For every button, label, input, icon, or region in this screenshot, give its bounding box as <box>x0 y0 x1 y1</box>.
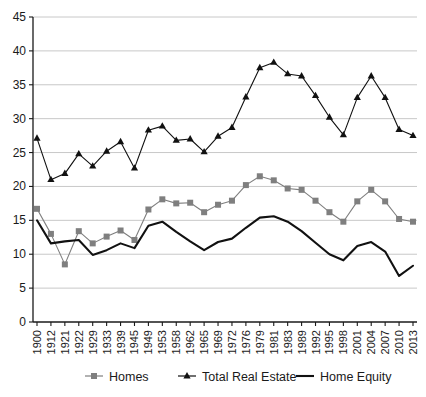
x-axis-tick-label: 1929 <box>87 330 99 354</box>
x-axis-tick-label: 1958 <box>170 330 182 354</box>
data-point-marker <box>201 209 207 215</box>
x-axis-tick-label: 2007 <box>379 330 391 354</box>
chart-container: 0510152025303540451900191219211922192919… <box>0 0 426 397</box>
data-point-marker <box>187 135 194 141</box>
data-point-marker <box>117 138 124 144</box>
legend-label: Homes <box>109 370 149 384</box>
x-axis-tick-label: 2004 <box>365 330 377 354</box>
x-axis-tick-label: 1979 <box>254 330 266 354</box>
data-point-marker <box>368 187 374 193</box>
data-point-marker <box>90 240 96 246</box>
x-axis-tick-label: 1992 <box>310 330 322 354</box>
x-axis-tick-label: 1983 <box>282 330 294 354</box>
data-point-marker <box>33 134 40 140</box>
data-point-marker <box>257 173 263 179</box>
data-point-marker <box>159 196 165 202</box>
x-axis-tick-label: 1933 <box>101 330 113 354</box>
x-axis-tick-label: 1998 <box>337 330 349 354</box>
data-point-marker <box>340 219 346 225</box>
data-point-marker <box>173 200 179 206</box>
data-point-marker <box>229 198 235 204</box>
x-axis-tick-label: 1962 <box>184 330 196 354</box>
legend-item-total-real-estate[interactable]: Total Real Estate <box>178 370 297 384</box>
data-point-marker <box>103 147 110 153</box>
series-total-real-estate <box>33 58 416 182</box>
data-point-marker <box>62 261 68 267</box>
data-point-marker <box>215 202 221 208</box>
data-point-marker <box>131 164 138 170</box>
x-axis-group: 1900191219211922192919331939194519491953… <box>31 322 419 354</box>
x-axis-tick-label: 1972 <box>226 330 238 354</box>
legend-label: Total Real Estate <box>202 370 297 384</box>
data-point-marker <box>395 126 402 132</box>
data-point-marker <box>118 228 124 234</box>
data-point-marker <box>368 72 375 78</box>
x-axis-tick-label: 2013 <box>407 330 419 354</box>
x-axis-tick-label: 1969 <box>212 330 224 354</box>
data-point-marker <box>187 200 193 206</box>
y-axis-tick-label: 35 <box>13 78 27 92</box>
x-axis-tick-label: 1953 <box>156 330 168 354</box>
x-axis-tick-label: 1981 <box>268 330 280 354</box>
data-point-marker <box>75 150 82 156</box>
data-point-marker <box>354 198 360 204</box>
legend: HomesTotal Real EstateHome Equity <box>85 370 392 384</box>
x-axis-tick-label: 2001 <box>351 330 363 354</box>
x-axis-tick-label: 2010 <box>393 330 405 354</box>
x-axis-tick-label: 1995 <box>323 330 335 354</box>
data-point-marker <box>382 198 388 204</box>
y-axis-tick-label: 20 <box>13 179 27 193</box>
data-point-marker <box>159 122 166 128</box>
data-point-marker <box>76 228 82 234</box>
x-axis-tick-label: 1912 <box>45 330 57 354</box>
y-axis-tick-label: 15 <box>13 213 27 227</box>
data-point-marker <box>48 231 54 237</box>
data-point-marker <box>271 177 277 183</box>
legend-marker-square <box>91 373 97 379</box>
legend-marker-triangle <box>183 372 190 378</box>
x-axis-tick-label: 1900 <box>31 330 43 354</box>
y-axis-tick-label: 10 <box>13 247 27 261</box>
y-axis-tick-label: 40 <box>13 44 27 58</box>
x-axis-tick-label: 1921 <box>59 330 71 354</box>
y-axis-tick-label: 30 <box>13 112 27 126</box>
x-axis-tick-label: 1939 <box>115 330 127 354</box>
line-chart: 0510152025303540451900191219211922192919… <box>0 0 426 397</box>
data-point-marker <box>228 124 235 130</box>
series-line <box>37 62 413 179</box>
x-axis-tick-label: 1976 <box>240 330 252 354</box>
y-axis-tick-label: 5 <box>19 281 26 295</box>
data-point-marker <box>410 219 416 225</box>
x-axis-tick-label: 1922 <box>73 330 85 354</box>
legend-item-home-equity[interactable]: Home Equity <box>296 370 392 384</box>
data-point-marker <box>145 206 151 212</box>
legend-label: Home Equity <box>320 370 392 384</box>
data-point-marker <box>299 187 305 193</box>
data-point-marker <box>396 216 402 222</box>
data-point-marker <box>214 132 221 138</box>
x-axis-tick-label: 1989 <box>296 330 308 354</box>
y-axis-tick-label: 25 <box>13 146 27 160</box>
y-axis-tick-label: 45 <box>13 10 27 24</box>
y-axis-tick-label: 0 <box>19 315 26 329</box>
x-axis-tick-label: 1945 <box>128 330 140 354</box>
data-point-marker <box>285 185 291 191</box>
data-point-marker <box>242 93 249 99</box>
data-point-marker <box>131 237 137 243</box>
data-point-marker <box>34 206 40 212</box>
data-point-marker <box>284 70 291 76</box>
data-point-marker <box>326 209 332 215</box>
data-point-marker <box>104 234 110 240</box>
data-point-marker <box>243 182 249 188</box>
data-point-marker <box>313 198 319 204</box>
x-axis-tick-label: 1949 <box>142 330 154 354</box>
x-axis-tick-label: 1965 <box>198 330 210 354</box>
data-point-marker <box>270 58 277 64</box>
grid-group: 051015202530354045 <box>13 10 417 329</box>
legend-item-homes[interactable]: Homes <box>85 370 149 384</box>
